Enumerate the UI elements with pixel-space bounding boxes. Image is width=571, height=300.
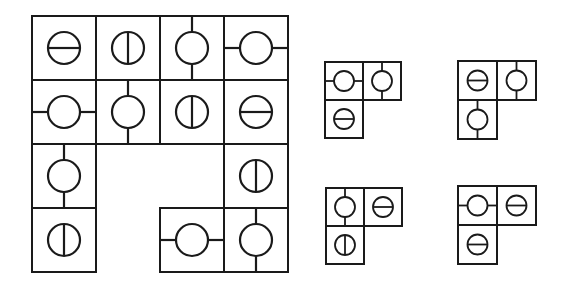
v-conn-icon (459, 101, 496, 138)
h-bar-icon (225, 81, 287, 143)
cell-h-bar (457, 224, 498, 265)
cell-v-conn (31, 143, 97, 209)
v-conn-icon (161, 17, 223, 79)
h-bar-icon (459, 62, 496, 99)
cell-h-bar (324, 99, 364, 139)
cell-v-conn (362, 61, 402, 101)
cell-v-bar (159, 79, 225, 145)
h-conn-icon (161, 209, 223, 271)
cell-h-bar (31, 15, 97, 81)
h-bar-icon (365, 189, 401, 225)
h-bar-icon (326, 101, 362, 137)
h-bar-icon (33, 17, 95, 79)
v-conn-icon (225, 209, 287, 271)
cell-v-bar (95, 15, 161, 81)
cell-h-bar (496, 185, 537, 226)
v-conn-icon (327, 189, 363, 225)
cell-v-conn (325, 187, 365, 227)
v-bar-icon (161, 81, 223, 143)
cell-v-conn (457, 99, 498, 140)
v-bar-icon (327, 227, 363, 263)
cell-v-conn (159, 15, 225, 81)
v-bar-icon (33, 209, 95, 271)
v-conn-icon (97, 81, 159, 143)
h-conn-icon (33, 81, 95, 143)
cell-v-bar (325, 225, 365, 265)
cell-v-conn (496, 60, 537, 101)
h-conn-icon (459, 187, 496, 224)
cell-v-bar (31, 207, 97, 273)
cell-h-bar (363, 187, 403, 227)
cell-v-bar (223, 143, 289, 209)
cell-h-conn (223, 15, 289, 81)
cell-v-conn (223, 207, 289, 273)
cell-h-conn (159, 207, 225, 273)
h-conn-icon (326, 63, 362, 99)
cell-h-bar (457, 60, 498, 101)
h-bar-icon (498, 187, 535, 224)
cell-h-bar (223, 79, 289, 145)
cell-h-conn (31, 79, 97, 145)
cell-v-conn (95, 79, 161, 145)
v-conn-icon (498, 62, 535, 99)
h-bar-icon (459, 226, 496, 263)
v-bar-icon (225, 145, 287, 207)
cell-h-conn (457, 185, 498, 226)
cell-h-conn (324, 61, 364, 101)
v-conn-icon (364, 63, 400, 99)
v-bar-icon (97, 17, 159, 79)
h-conn-icon (225, 17, 287, 79)
v-conn-icon (33, 145, 95, 207)
